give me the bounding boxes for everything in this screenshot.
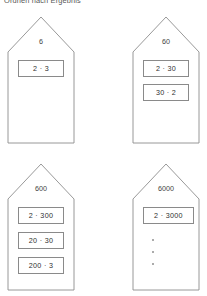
term-box[interactable]: 2 · 300 [18,207,64,224]
empty-term-slot-dot[interactable] [152,263,154,265]
house-outline-shape [132,163,200,291]
term-box[interactable]: 20 · 30 [18,232,64,249]
worksheet-canvas: Ordnen nach Ergebnis 6 2 · 3 60 2 · 30 3… [0,0,207,296]
house-card-6000[interactable]: 6000 2 · 3000 [132,163,200,291]
house-outline-shape [132,16,200,144]
house-result-label: 6 [7,38,75,46]
house-result-label: 6000 [132,185,200,193]
term-box[interactable]: 2 · 30 [143,60,189,77]
house-outline-shape [7,16,75,144]
term-box[interactable]: 30 · 2 [143,84,189,101]
term-box[interactable]: 2 · 3000 [143,207,194,224]
house-card-60[interactable]: 60 2 · 30 30 · 2 [132,16,200,144]
term-box[interactable]: 200 · 3 [18,257,64,274]
house-result-label: 60 [132,38,200,46]
page-title: Ordnen nach Ergebnis [4,0,81,6]
house-card-6[interactable]: 6 2 · 3 [7,16,75,144]
empty-term-slot-dot[interactable] [152,251,154,253]
empty-term-slot-dot[interactable] [152,239,154,241]
term-box[interactable]: 2 · 3 [18,60,64,77]
house-card-600[interactable]: 600 2 · 300 20 · 30 200 · 3 [7,163,75,291]
house-result-label: 600 [7,185,75,193]
